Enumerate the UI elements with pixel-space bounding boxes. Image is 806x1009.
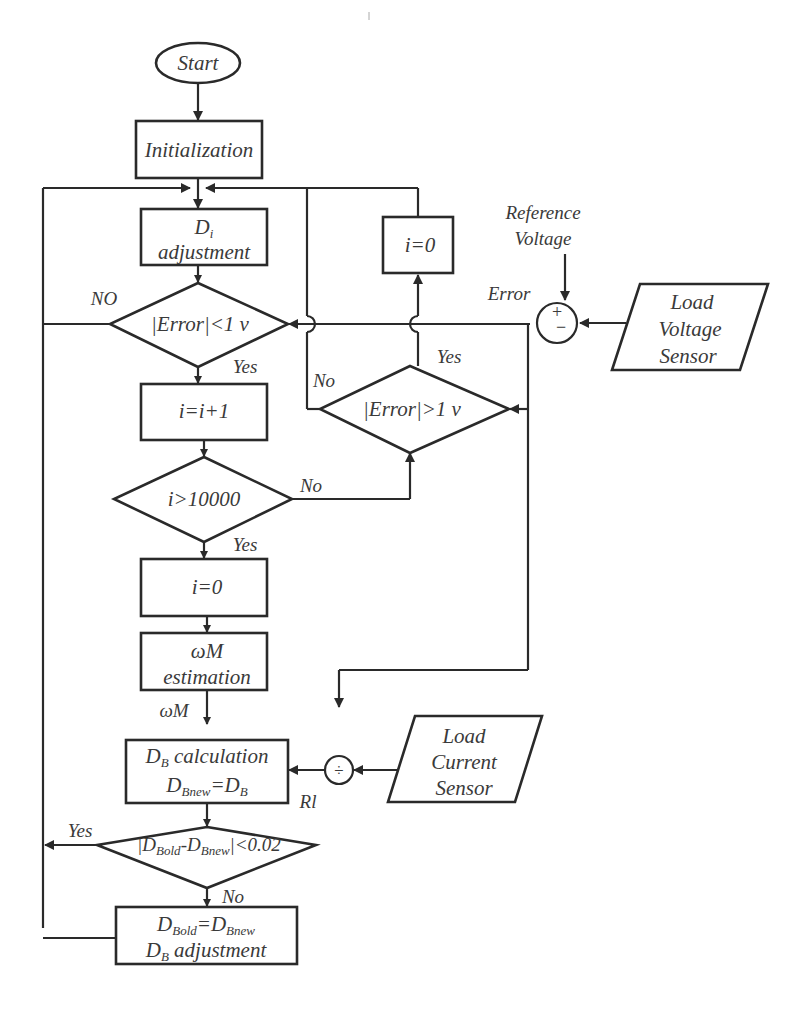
node-db-adjustment: DBold=DBnew DB adjustment — [116, 907, 297, 964]
err-gt-no-label: No — [312, 370, 335, 391]
lv-line3: Sensor — [659, 344, 717, 368]
lc-line3: Sensor — [435, 776, 493, 800]
node-start: Start — [156, 43, 240, 83]
init-label: Initialization — [144, 138, 254, 162]
err-gt-yes-label: Yes — [437, 346, 462, 367]
err-lt-yes-label: Yes — [233, 356, 258, 377]
lv-line2: Voltage — [659, 317, 722, 341]
lc-line2: Current — [431, 750, 498, 774]
di-label-line2: adjustment — [158, 240, 251, 264]
lv-line1: Load — [669, 290, 714, 314]
ref-voltage-label-2: Voltage — [515, 228, 572, 249]
node-load-current-sensor: Load Current Sensor — [388, 716, 542, 802]
dbcmp-yes-label: Yes — [68, 820, 93, 841]
node-reset-i-upper: i=0 — [383, 217, 453, 273]
wm-label-line2: estimation — [163, 665, 251, 689]
reset-i2-label: i=0 — [405, 233, 436, 257]
node-error-gt-decision: |Error|>1 v — [320, 366, 509, 453]
err-lt-label: |Error|<1 v — [151, 312, 250, 336]
igt-label: i>10000 — [168, 487, 241, 511]
ref-voltage-label-1: Reference — [504, 202, 580, 223]
node-i-gt-decision: i>10000 — [114, 457, 292, 542]
wm-signal-label: ωM — [159, 700, 189, 721]
igt-no-label: No — [299, 475, 322, 496]
divider-junction: ÷ — [325, 756, 353, 784]
node-increment: i=i+1 — [141, 384, 267, 440]
reset-i-label: i=0 — [192, 575, 223, 599]
node-db-compare-decision: |DBold-DBnew|<0.02 — [97, 827, 316, 888]
node-wm-estimation: ωM estimation — [141, 633, 267, 690]
error-label: Error — [487, 283, 531, 304]
node-initialization: Initialization — [136, 121, 262, 178]
err-gt-label: |Error|>1 v — [363, 397, 462, 421]
start-label: Start — [178, 51, 220, 75]
minus-sign: − — [556, 317, 566, 337]
dbcmp-no-label: No — [221, 886, 244, 907]
summing-junction: + − — [537, 302, 577, 343]
node-reset-i: i=0 — [141, 559, 267, 616]
inc-label: i=i+1 — [179, 399, 230, 423]
node-di-adjustment: Di adjustment — [141, 209, 267, 265]
err-lt-no-label: NO — [90, 288, 118, 309]
rl-signal-label: Rl — [299, 791, 317, 812]
node-error-lt-decision: |Error|<1 v — [110, 283, 288, 367]
igt-yes-label: Yes — [233, 534, 258, 555]
lc-line1: Load — [441, 724, 486, 748]
node-db-calculation: DB calculation DBnew=DB — [126, 740, 288, 803]
node-load-voltage-sensor: Load Voltage Sensor — [612, 284, 768, 370]
divide-sign: ÷ — [334, 761, 343, 780]
wm-label-line1: ωM — [191, 639, 225, 663]
flowchart-canvas: Start Initialization Di adjustment |Erro… — [0, 0, 806, 1009]
